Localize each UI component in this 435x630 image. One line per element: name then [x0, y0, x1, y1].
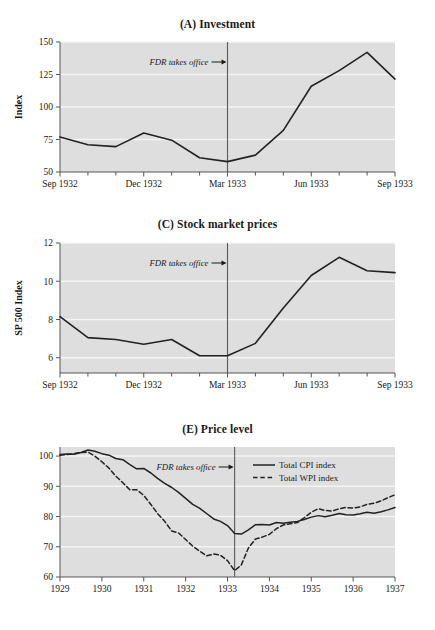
panel-e-plot: 6070809010019291930193119321933193419351…	[0, 405, 435, 630]
y-axis-title: Index	[13, 95, 24, 119]
x-tick-label: 1932	[176, 584, 195, 594]
x-tick-label: 1931	[134, 584, 153, 594]
y-tick-label: 125	[39, 70, 54, 80]
y-tick-label: 60	[44, 572, 54, 582]
x-tick-label: Sep 1933	[377, 380, 413, 390]
y-axis-title: SP 500 Index	[13, 280, 24, 336]
y-tick-label: 100	[39, 102, 54, 112]
x-tick-label: Mar 1933	[209, 380, 246, 390]
panel-c-plot: 681012Sep 1932Dec 1932Mar 1933Jun 1933Se…	[0, 205, 435, 405]
legend-label-0: Total CPI index	[279, 460, 336, 470]
y-tick-label: 8	[48, 315, 53, 325]
fdr-annotation-label: FDR takes office	[148, 258, 208, 268]
x-tick-label: 1929	[51, 584, 70, 594]
y-tick-label: 150	[39, 37, 54, 47]
x-tick-label: Sep 1933	[377, 179, 413, 189]
panel-stock-market: (C) Stock market prices 681012Sep 1932De…	[0, 205, 435, 405]
x-tick-label: Sep 1932	[42, 179, 78, 189]
panel-a-plot: 5075100125150Sep 1932Dec 1932Mar 1933Jun…	[0, 0, 435, 205]
x-tick-label: Jun 1933	[294, 179, 329, 189]
x-tick-label: 1930	[92, 584, 111, 594]
y-tick-label: 80	[44, 512, 54, 522]
x-tick-label: Dec 1932	[125, 380, 162, 390]
fdr-annotation-label: FDR takes office	[155, 462, 215, 472]
x-tick-label: 1933	[218, 584, 237, 594]
panel-price-level: (E) Price level 607080901001929193019311…	[0, 405, 435, 630]
x-tick-label: Sep 1932	[42, 380, 78, 390]
y-tick-label: 70	[44, 542, 54, 552]
x-tick-label: 1935	[302, 584, 321, 594]
fdr-annotation-label: FDR takes office	[148, 57, 208, 67]
x-tick-label: Dec 1932	[125, 179, 162, 189]
x-tick-label: Jun 1933	[294, 380, 329, 390]
x-tick-label: 1937	[386, 584, 405, 594]
x-tick-label: 1934	[260, 584, 279, 594]
y-tick-label: 75	[44, 135, 54, 145]
y-tick-label: 50	[44, 167, 54, 177]
figure-root: (A) Investment 5075100125150Sep 1932Dec …	[0, 0, 435, 630]
legend-label-1: Total WPI index	[279, 473, 339, 483]
panel-investment: (A) Investment 5075100125150Sep 1932Dec …	[0, 0, 435, 205]
x-tick-label: Mar 1933	[209, 179, 246, 189]
y-tick-label: 100	[39, 451, 54, 461]
x-tick-label: 1936	[344, 584, 363, 594]
y-tick-label: 10	[44, 277, 54, 287]
y-tick-label: 6	[48, 353, 53, 363]
y-tick-label: 90	[44, 482, 54, 492]
y-tick-label: 12	[44, 238, 54, 248]
